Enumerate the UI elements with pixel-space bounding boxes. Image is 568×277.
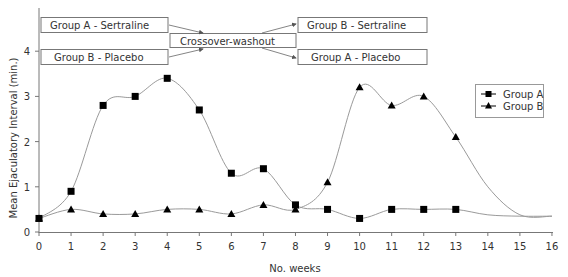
y-tick-label: 4 <box>24 46 30 57</box>
annotation-label: Group A - Placebo <box>311 52 400 63</box>
arrow-icon <box>262 24 296 33</box>
square-marker-icon <box>420 206 427 213</box>
x-tick-label: 6 <box>228 241 234 252</box>
annotation-label: Group B - Sertraline <box>307 20 406 31</box>
x-axis-label: No. weeks <box>269 263 320 274</box>
annotation-crossover-washout: Crossover-washout <box>170 34 296 48</box>
x-tick-label: 10 <box>353 241 366 252</box>
annotation-group-a-placebo: Group A - Placebo <box>298 50 427 65</box>
arrow-icon <box>169 49 203 57</box>
x-tick-label: 3 <box>132 241 138 252</box>
x-tick-label: 4 <box>164 241 170 252</box>
square-marker-icon <box>356 215 363 222</box>
triangle-marker-icon <box>324 178 332 185</box>
y-axis-label: Mean Ejaculatory Interval (min.) <box>8 57 19 218</box>
chart: 01234 012345678910111213141516 No. weeks… <box>0 0 568 277</box>
square-marker-icon <box>452 206 459 213</box>
triangle-marker-icon <box>259 201 267 208</box>
x-tick-label: 0 <box>36 241 42 252</box>
x-tick-label: 9 <box>324 241 330 252</box>
annotation-label: Group A - Sertraline <box>50 20 149 31</box>
square-marker-icon <box>68 188 75 195</box>
x-tick-label: 2 <box>100 241 106 252</box>
x-tick-label: 7 <box>260 241 266 252</box>
legend: Group A Group B <box>476 85 544 118</box>
legend-label-group-b: Group B <box>503 101 544 112</box>
triangle-marker-icon <box>452 133 460 140</box>
square-marker-icon <box>324 206 331 213</box>
annotation-label: Group B - Placebo <box>54 52 144 63</box>
arrow-icon <box>262 48 296 58</box>
annotation-label: Crossover-washout <box>180 36 275 47</box>
series-group-b-markers <box>35 83 460 221</box>
x-tick-label: 13 <box>449 241 462 252</box>
y-ticks: 01234 <box>24 46 39 238</box>
x-tick-label: 15 <box>514 241 527 252</box>
square-marker-icon <box>164 75 171 82</box>
square-marker-icon <box>388 206 395 213</box>
square-marker-icon <box>132 93 139 100</box>
legend-label-group-a: Group A <box>503 89 544 100</box>
x-tick-label: 16 <box>546 241 559 252</box>
arrow-icon <box>169 25 203 33</box>
annotation-group-a-sertraline: Group A - Sertraline <box>41 18 168 33</box>
square-marker-icon <box>260 165 267 172</box>
square-marker-icon <box>228 170 235 177</box>
y-tick-label: 1 <box>24 182 30 193</box>
y-tick-label: 0 <box>24 227 30 238</box>
y-tick-label: 3 <box>24 91 30 102</box>
x-tick-label: 8 <box>292 241 298 252</box>
square-marker-icon <box>486 91 492 97</box>
square-marker-icon <box>100 102 107 109</box>
x-tick-label: 12 <box>417 241 430 252</box>
x-tick-label: 14 <box>481 241 494 252</box>
x-ticks: 012345678910111213141516 <box>36 232 559 252</box>
annotation-group-b-placebo: Group B - Placebo <box>41 50 168 65</box>
square-marker-icon <box>196 106 203 113</box>
series-group-a-markers <box>36 75 460 222</box>
annotation-group-b-sertraline: Group B - Sertraline <box>298 18 427 33</box>
x-tick-label: 1 <box>68 241 74 252</box>
x-tick-label: 11 <box>385 241 398 252</box>
y-tick-label: 2 <box>24 137 30 148</box>
x-tick-label: 5 <box>196 241 202 252</box>
